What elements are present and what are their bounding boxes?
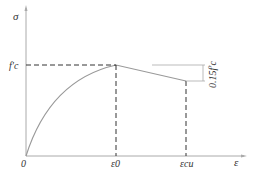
origin-label: 0: [21, 158, 26, 169]
peak-stress-label: f'c: [9, 60, 19, 71]
peak-strain-label: ε0: [111, 158, 120, 169]
x-axis-arrow: [241, 155, 247, 158]
drop-label: 0.15f'c: [207, 61, 218, 88]
stress-strain-diagram: σ ε 0 f'c ε0 εcu 0.15f'c: [0, 0, 255, 177]
ultimate-strain-label: εcu: [180, 158, 193, 169]
y-axis-arrow: [25, 5, 28, 11]
stress-strain-curve: [26, 65, 186, 156]
y-axis-label: σ: [13, 10, 19, 22]
diagram-canvas: σ ε 0 f'c ε0 εcu 0.15f'c: [0, 0, 255, 177]
x-axis-label: ε: [234, 156, 239, 168]
